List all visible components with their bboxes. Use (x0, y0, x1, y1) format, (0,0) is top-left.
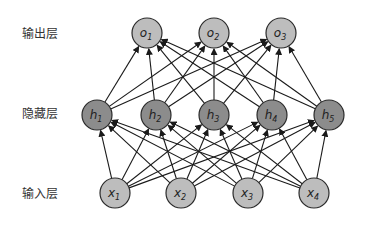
edge-h3-to-o3 (223, 45, 270, 103)
node-h5: h5 (314, 100, 344, 130)
edge-h2-to-o1 (149, 49, 155, 100)
edge-h1-to-o1 (105, 47, 139, 103)
edge-h5-to-o3 (289, 47, 321, 102)
node-h4: h4 (257, 100, 287, 130)
node-o3: o3 (266, 18, 296, 48)
neural-network-diagram: o1o2o3h1h2h3h4h5x1x2x3x4 输出层隐藏层输入层 (0, 0, 365, 228)
node-h2: h2 (141, 100, 171, 130)
node-x4: x4 (299, 178, 329, 208)
edge-x3-to-h5 (259, 126, 318, 183)
node-h1: h1 (82, 100, 112, 130)
node-h3: h3 (199, 100, 229, 130)
edge-x4-to-h4 (280, 129, 307, 180)
edge-h3-to-o1 (157, 45, 204, 103)
node-o2: o2 (199, 18, 229, 48)
edge-x1-to-h5 (129, 120, 314, 187)
edge-x1-to-h2 (122, 129, 149, 180)
layer-labels: 输出层隐藏层输入层 (22, 26, 58, 201)
node-x3: x3 (233, 178, 263, 208)
node-x2: x2 (166, 178, 196, 208)
edge-x1-to-h1 (101, 131, 112, 179)
edge-x2-to-h3 (187, 130, 208, 179)
edge-x4-to-h5 (317, 131, 326, 179)
edge-h4-to-o1 (160, 42, 259, 107)
layer-label-input: 输入层 (22, 186, 58, 201)
edge-h4-to-o2 (223, 46, 263, 103)
node-o1: o1 (132, 18, 162, 48)
layer-label-output: 输出层 (22, 26, 58, 41)
network-nodes: o1o2o3h1h2h3h4h5x1x2x3x4 (82, 18, 344, 208)
node-x1: x1 (100, 178, 130, 208)
edge-x3-to-h1 (111, 122, 234, 186)
edge-h5-to-o2 (227, 42, 317, 106)
edge-h2-to-o2 (165, 46, 205, 103)
edge-h2-to-o3 (169, 42, 268, 107)
edge-x2-to-h5 (194, 122, 315, 186)
layer-label-hidden: 隐藏层 (22, 107, 58, 121)
